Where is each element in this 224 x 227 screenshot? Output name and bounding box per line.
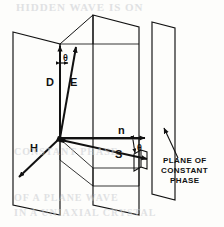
n-vector-label: n: [118, 124, 125, 136]
ghost-text-bottom-2: IN A UNIAXIAL CRYSTAL: [14, 207, 156, 218]
ghost-text-bottom-1: OF A PLANE WAVE: [14, 192, 119, 203]
theta-upper-label: θ: [63, 53, 68, 63]
caption-line-2: CONSTANT: [161, 166, 208, 175]
caption-line-1: PLANE OF: [163, 156, 207, 165]
e-vector-label: E: [70, 76, 77, 88]
middle-plane: [93, 15, 139, 215]
theta-lower-arc: [133, 140, 135, 153]
callout-leader-line: [164, 128, 178, 158]
figure-canvas: HIDDEN WAVE IS ON CONSTANT PHASE OF A PL…: [0, 0, 224, 227]
caption-line-3: PHASE: [170, 176, 200, 185]
ghost-text-mid: CONSTANT PHASE: [14, 146, 118, 157]
ghost-text-top: HIDDEN WAVE IS ON: [16, 1, 144, 13]
theta-lower-label: θ: [137, 143, 142, 153]
h-vector-arrow: [19, 139, 59, 177]
d-vector-label: D: [46, 76, 54, 88]
left-plane: [13, 32, 60, 215]
